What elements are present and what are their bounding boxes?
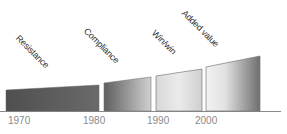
evolution-diagram: Resistance Compliance Win/win Added valu…	[0, 0, 287, 134]
stage-block-compliance	[104, 77, 151, 111]
stage-block-added-value	[206, 56, 260, 111]
year-label-2000: 2000	[195, 115, 217, 126]
year-label-1990: 1990	[147, 115, 169, 126]
year-label-1970: 1970	[8, 115, 30, 126]
stage-block-resistance	[6, 85, 99, 111]
year-label-1980: 1980	[83, 115, 105, 126]
stage-block-winwin	[156, 69, 202, 111]
